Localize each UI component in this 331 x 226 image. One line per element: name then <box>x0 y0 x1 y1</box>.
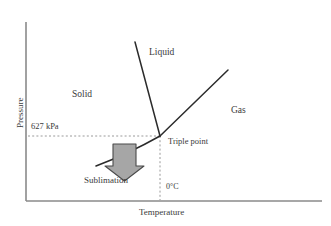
pressure-value-label: 627 kPa <box>31 122 59 131</box>
region-label-solid: Solid <box>72 90 92 100</box>
sublimation-label: Sublimation <box>84 176 128 185</box>
vaporization-curve <box>160 70 228 136</box>
region-label-liquid: Liquid <box>149 48 174 58</box>
x-axis-label: Temperature <box>139 208 184 217</box>
phase-diagram-figure: Pressure Temperature Solid Liquid Gas 62… <box>0 0 331 226</box>
region-label-gas: Gas <box>231 106 246 116</box>
triple-point-label: Triple point <box>168 137 208 146</box>
temperature-value-label: 0°C <box>166 183 179 191</box>
phase-diagram-canvas <box>0 0 331 226</box>
y-axis-label: Pressure <box>16 98 25 129</box>
